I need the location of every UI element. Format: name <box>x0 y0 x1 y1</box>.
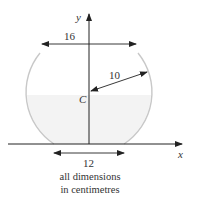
x-axis-label: x <box>178 149 183 160</box>
caption-line-2: in centimetres <box>40 183 140 196</box>
base-dimension-label: 12 <box>83 158 94 169</box>
top-dimension-label: 16 <box>64 31 75 42</box>
caption-line-1: all dimensions <box>40 170 140 183</box>
y-axis-label: y <box>76 12 81 23</box>
radius-label: 10 <box>109 70 120 81</box>
center-label: C <box>79 94 86 105</box>
